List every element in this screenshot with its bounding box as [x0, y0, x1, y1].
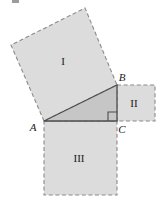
vertex-label-b: B — [119, 71, 126, 83]
square-one-label: I — [61, 55, 65, 67]
square-three-label: III — [74, 152, 85, 164]
vertex-label-c: C — [118, 123, 126, 135]
geometry-figure: I II III A B C — [0, 0, 161, 205]
vertex-label-a: A — [29, 121, 37, 133]
square-two-label: II — [130, 97, 138, 109]
figure-canvas: I II III A B C — [0, 0, 161, 205]
